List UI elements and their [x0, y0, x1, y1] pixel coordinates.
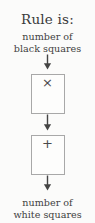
- input-label: number of black squares: [14, 31, 81, 54]
- operation-box-multiply[interactable]: ×: [31, 74, 65, 114]
- input-label-line-2: black squares: [14, 43, 81, 55]
- operation-box-add[interactable]: +: [31, 135, 65, 175]
- rule-flow-diagram: Rule is: number of black squares × + num…: [0, 0, 95, 223]
- output-label: number of white squares: [13, 197, 81, 220]
- output-label-line-2: white squares: [13, 209, 81, 221]
- input-label-line-1: number of: [14, 31, 81, 43]
- arrow-down-icon-add-to-output: [42, 175, 53, 195]
- page-title: Rule is:: [21, 11, 74, 27]
- multiply-icon: ×: [42, 76, 53, 89]
- output-label-line-1: number of: [13, 197, 81, 209]
- arrow-down-icon-multiply-to-add: [42, 114, 53, 135]
- arrow-down-icon-input-to-multiply: [42, 54, 53, 74]
- add-icon: +: [42, 137, 53, 150]
